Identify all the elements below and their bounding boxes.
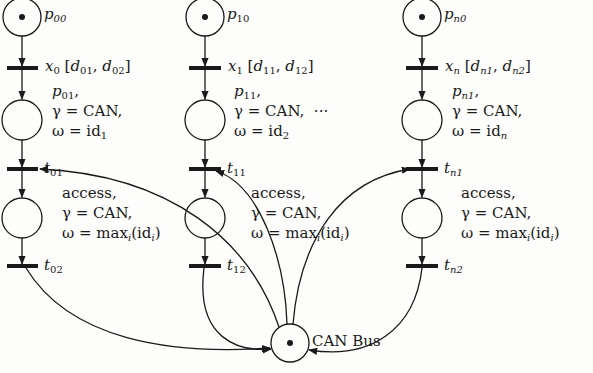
transition-t02 bbox=[7, 264, 38, 268]
token-can-bus bbox=[287, 340, 293, 346]
label-xn: xn [dn1, dn2] bbox=[445, 58, 531, 79]
label-t02: t02 bbox=[44, 257, 63, 278]
label-p01-gamma: γ = CAN, bbox=[52, 103, 122, 120]
place-p11 bbox=[185, 100, 225, 140]
label-t11: t11 bbox=[227, 160, 246, 181]
label-p11-gamma: γ = CAN, ··· bbox=[234, 103, 328, 120]
arc-t12-to-canbus bbox=[203, 268, 271, 349]
transition-x1 bbox=[189, 66, 221, 70]
place-access-1 bbox=[185, 198, 225, 238]
token-pn0 bbox=[419, 14, 425, 20]
label-access-0: access, bbox=[62, 185, 117, 202]
token-p00 bbox=[19, 14, 25, 20]
label-p11-omega: ω = id2 bbox=[234, 123, 289, 144]
label-access-n: access, bbox=[461, 185, 516, 202]
label-p11: p11, bbox=[234, 83, 261, 104]
place-access-n bbox=[402, 198, 442, 238]
transition-x0 bbox=[7, 66, 38, 70]
transition-tn2 bbox=[406, 264, 438, 268]
token-p10 bbox=[202, 14, 208, 20]
column-n bbox=[402, 0, 442, 268]
label-access-1-gamma: γ = CAN, bbox=[251, 205, 321, 222]
label-pn1-omega: ω = idn bbox=[452, 123, 507, 144]
label-t01: t01 bbox=[44, 160, 63, 181]
label-tn1: tn1 bbox=[444, 160, 463, 181]
transition-t12 bbox=[189, 264, 221, 268]
label-x0: x0 [d01, d02] bbox=[45, 58, 131, 79]
label-p10: p10 bbox=[227, 6, 249, 27]
transition-tn1 bbox=[406, 167, 438, 171]
label-access-0-gamma: γ = CAN, bbox=[62, 205, 132, 222]
arc-canbus-to-tn1 bbox=[293, 169, 410, 324]
column-0 bbox=[2, 0, 42, 268]
label-can-bus: CAN Bus bbox=[312, 333, 381, 350]
label-access-1-omega: ω = maxi(idi) bbox=[251, 225, 350, 246]
label-pn0: pn0 bbox=[444, 6, 466, 27]
place-p01 bbox=[2, 100, 42, 140]
label-p01-omega: ω = id1 bbox=[52, 123, 107, 144]
label-access-1: access, bbox=[251, 185, 306, 202]
label-access-n-omega: ω = maxi(idi) bbox=[461, 225, 560, 246]
label-pn1-gamma: γ = CAN, bbox=[452, 103, 522, 120]
column-1 bbox=[185, 0, 225, 268]
place-pn1 bbox=[402, 100, 442, 140]
label-access-n-gamma: γ = CAN, bbox=[461, 205, 531, 222]
label-p00: p00 bbox=[44, 6, 66, 27]
label-tn2: tn2 bbox=[444, 257, 463, 278]
label-x1: x1 [d11, d12] bbox=[228, 58, 314, 79]
label-p01: p01, bbox=[52, 83, 79, 104]
ellipsis: ··· bbox=[314, 102, 328, 120]
transition-t01 bbox=[7, 167, 38, 171]
label-access-0-omega: ω = maxi(idi) bbox=[62, 225, 161, 246]
place-access-0 bbox=[2, 198, 42, 238]
label-pn1: pn1, bbox=[452, 83, 479, 104]
arc-t02-to-canbus bbox=[26, 268, 270, 350]
transition-xn bbox=[406, 66, 438, 70]
label-t12: t12 bbox=[227, 257, 246, 278]
